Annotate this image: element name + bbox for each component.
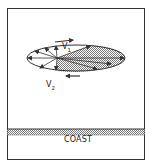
v2-subscript: 2	[51, 85, 55, 91]
v2-label: V2	[46, 80, 55, 91]
v1-label: V1	[62, 42, 71, 53]
v1-subscript: 1	[67, 47, 71, 53]
coast-label: COAST	[0, 135, 156, 144]
